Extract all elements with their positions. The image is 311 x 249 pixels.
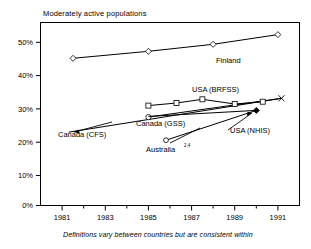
marker-point bbox=[146, 103, 151, 108]
chart-plot-area: 50% 40% 30% 20% 10% 0% 1981 1983 1985 bbox=[0, 0, 311, 249]
x-tick-label-1987: 1987 bbox=[183, 213, 200, 222]
chart-figure: Moderately active populations 50% 40% 30… bbox=[0, 0, 311, 249]
y-tick-label-20: 20% bbox=[18, 138, 33, 147]
marker-point bbox=[200, 97, 205, 102]
x-tick-label-1981: 1981 bbox=[54, 213, 71, 222]
y-tick-label-40: 40% bbox=[18, 71, 33, 80]
series-label-canada-cfs: Canada (CFS) bbox=[58, 130, 107, 139]
y-axis-tick-labels: 50% 40% 30% 20% 10% 0% bbox=[18, 38, 33, 210]
series-label-usa-nhis: USA (NHIS) bbox=[230, 126, 271, 135]
series-label-canada-gss: Canada (GSS) bbox=[136, 119, 186, 128]
y-tick-label-0: 0% bbox=[22, 201, 33, 210]
series-label-australia-superscript: 2,4 bbox=[184, 143, 191, 148]
y-axis-ticks bbox=[36, 42, 41, 205]
chart-title: Moderately active populations bbox=[43, 9, 147, 18]
x-tick-label-1991: 1991 bbox=[270, 213, 287, 222]
series-label-finland: Finland bbox=[216, 56, 241, 65]
series-label-australia: Australia bbox=[146, 145, 176, 154]
x-axis-tick-labels: 1981 1983 1985 1987 1989 1991 bbox=[54, 213, 286, 222]
marker-point bbox=[232, 102, 237, 107]
series-label-usa-brfss: USA (BRFSS) bbox=[192, 85, 240, 94]
marker-point bbox=[174, 101, 179, 106]
chart-footnote: Definitions vary between countries but a… bbox=[63, 231, 253, 238]
marker-point bbox=[260, 99, 265, 104]
y-tick-label-30: 30% bbox=[18, 105, 33, 114]
y-tick-label-50: 50% bbox=[18, 38, 33, 47]
series-markers-australia bbox=[164, 138, 169, 143]
marker-point bbox=[164, 138, 169, 143]
x-tick-label-1983: 1983 bbox=[97, 213, 114, 222]
x-axis-ticks bbox=[62, 206, 278, 211]
x-tick-label-1989: 1989 bbox=[226, 213, 243, 222]
x-tick-label-1985: 1985 bbox=[140, 213, 157, 222]
y-tick-label-10: 10% bbox=[18, 171, 33, 180]
